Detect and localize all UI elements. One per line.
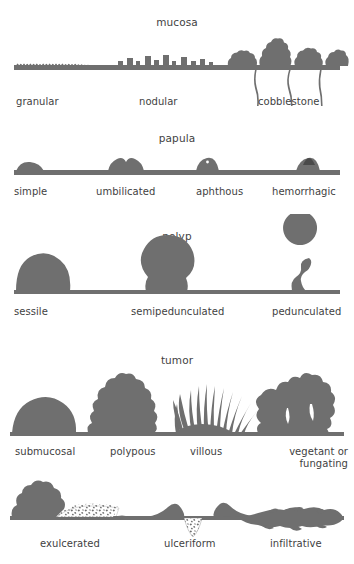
label-umbilicated: umbilicated — [96, 186, 155, 198]
label-exulcerated: exulcerated — [40, 538, 100, 550]
label-semipedunculated: semipedunculated — [131, 306, 224, 318]
lesion-morphology-chart: mucosa — [0, 0, 354, 564]
ulcer-figure — [0, 474, 354, 564]
panel-papula: papula simple umbilicated aphthous hemor… — [0, 112, 354, 214]
label-sessile: sessile — [14, 306, 48, 318]
papula-figure — [0, 112, 354, 214]
label-pedunculated: pedunculated — [272, 306, 341, 318]
label-infiltrative: infiltrative — [270, 538, 322, 550]
label-submucosal: submucosal — [15, 446, 75, 458]
panel-mucosa: mucosa — [0, 0, 354, 112]
label-ulceriform: ulceriform — [164, 538, 215, 550]
panel-polyp: polyp sessile semipedunculated peduncula… — [0, 214, 354, 334]
label-cobblestone: cobblestone — [258, 96, 320, 108]
label-villous: villous — [190, 446, 222, 458]
label-nodular: nodular — [139, 96, 178, 108]
label-granular: granular — [16, 96, 59, 108]
label-aphthous: aphthous — [196, 186, 243, 198]
label-polypous: polypous — [110, 446, 156, 458]
panel-ulcer: exulcerated ulceriform infiltrative — [0, 474, 354, 564]
label-hemorrhagic: hemorrhagic — [272, 186, 336, 198]
panel-tumor: tumor — [0, 334, 354, 474]
label-simple: simple — [14, 186, 47, 198]
label-vegetant-fungating: vegetant or fungating — [248, 446, 348, 469]
